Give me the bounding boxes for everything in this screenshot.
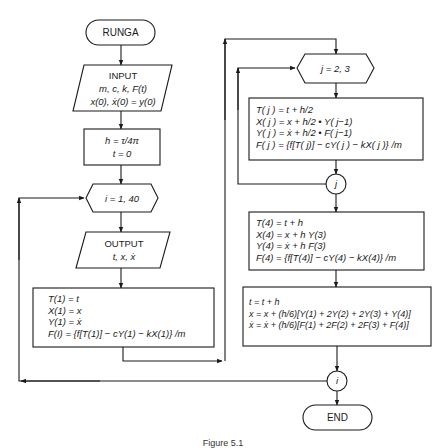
end-label: END <box>303 412 372 423</box>
step-j-line: F( j ) = {f[T( j)] − cY( j ) − kX( j )} … <box>256 139 402 151</box>
step1-line: F(I) = {f[T(1)] − cY(1) − kX(1)} /m <box>48 328 186 340</box>
init-line2: t = 0 <box>84 148 160 159</box>
step-j-line: X( j ) = x + h/2 • Y( j−1) <box>256 116 402 128</box>
step-j-lines: T( j ) = t + h/2 X( j ) = x + h/2 • Y( j… <box>256 104 402 150</box>
update-lines: t = t + h x = x + (h/6)[Y(1) + 2Y(2) + 2… <box>249 297 411 332</box>
step1-line: T(1) = t <box>48 293 186 305</box>
step1-lines: T(1) = t X(1) = x Y(1) = ẋ F(I) = {f[T(1… <box>48 293 186 339</box>
update-line: ẋ = ẋ + (h/6)[F(1) + 2F(2) + 2F(3) + F(4… <box>249 320 411 332</box>
figure-caption: Figure 5.1 <box>0 438 446 448</box>
outer-loop-connector-label: i <box>327 375 347 386</box>
input-title: INPUT <box>76 70 170 81</box>
update-line: x = x + (h/6)[Y(1) + 2Y(2) + 2Y(3) + Y(4… <box>249 309 411 321</box>
step4-line: X(4) = x + h Y(3) <box>256 229 396 241</box>
init-line1: h = τ/4π <box>84 135 160 146</box>
step4-line: F(4) = {f[T(4)] − cY(4) − kX(4)} /m <box>256 252 396 264</box>
input-line1: m, c, k, F(t) <box>76 83 170 94</box>
outer-loop-label: i = 1, 40 <box>86 193 158 204</box>
step4-lines: T(4) = t + h X(4) = x + h Y(3) Y(4) = ẋ … <box>256 217 396 263</box>
start-label: RUNGA <box>86 27 155 38</box>
step1-line: Y(1) = ẋ <box>48 316 186 328</box>
input-line2: x(0), ẋ(0) = y(0) <box>76 96 170 107</box>
inner-loop-connector-label: j <box>326 178 346 189</box>
update-line: t = t + h <box>249 297 411 309</box>
step-j-line: T( j ) = t + h/2 <box>256 104 402 116</box>
step4-line: T(4) = t + h <box>256 217 396 229</box>
step4-line: Y(4) = ẋ + h F(3) <box>256 240 396 252</box>
step-j-line: Y( j ) = ẋ + h/2 • F( j−1) <box>256 127 402 139</box>
inner-loop-label: j = 2, 3 <box>297 63 374 74</box>
step1-line: X(1) = x <box>48 305 186 317</box>
output-line1: t, x, ẋ <box>78 251 170 262</box>
output-title: OUTPUT <box>78 238 170 249</box>
